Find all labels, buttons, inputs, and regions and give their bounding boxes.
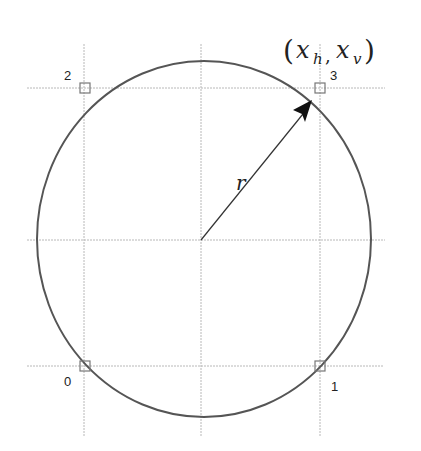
circle-outline: [37, 61, 371, 417]
grid-lines: [27, 44, 385, 436]
point-label-2: 2: [64, 68, 71, 83]
open-paren: (: [283, 34, 294, 67]
arrowhead-icon: [293, 100, 312, 122]
point-label-1: 1: [331, 379, 338, 394]
h-subscript: h: [313, 50, 323, 68]
circle-diagram: 2 3 0 1 r ( x h , x v ): [0, 0, 421, 451]
point-label-0: 0: [64, 374, 71, 389]
v-subscript: v: [353, 50, 362, 68]
x-h-symbol: x: [296, 36, 310, 64]
point-coordinate-label: ( x h , x v ): [283, 34, 375, 68]
x-v-symbol: x: [336, 36, 350, 64]
radius-arrow-line: [201, 109, 307, 240]
comma: ,: [325, 45, 331, 66]
point-label-3: 3: [330, 68, 337, 83]
close-paren: ): [364, 34, 375, 67]
radius-label: r: [236, 171, 247, 195]
